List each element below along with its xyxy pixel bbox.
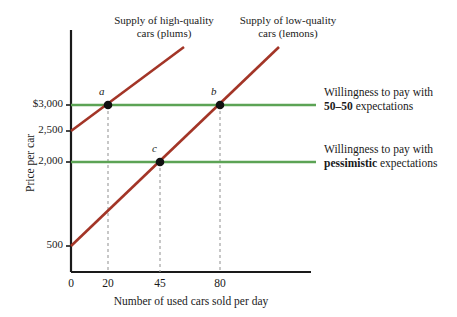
curve-label-plums: Supply of high-quality cars (plums) [106, 14, 222, 40]
legend-pessimistic-line2: pessimistic expectations [324, 157, 437, 171]
y-axis-title: Price per car [24, 134, 38, 192]
curve-label-plums-line1: Supply of high-quality [106, 14, 222, 27]
legend-5050-line2: 50–50 expectations [324, 100, 433, 114]
legend-5050-rest: expectations [353, 100, 413, 112]
point-b-label: b [211, 85, 217, 98]
legend-pessimistic-line1: Willingness to pay with [324, 143, 437, 157]
x-axis-title: Number of used cars sold per day [71, 295, 311, 309]
x-tick-label-20: 20 [93, 277, 123, 291]
supply-plums-line [71, 47, 184, 131]
point-a-marker [104, 101, 113, 110]
point-c-label: c [152, 142, 157, 155]
x-tick-label-45: 45 [145, 277, 175, 291]
x-tick-label-80: 80 [205, 277, 235, 291]
legend-5050-emphasis: 50–50 [324, 100, 353, 112]
legend-5050-line1: Willingness to pay with [324, 86, 433, 100]
supply-lemons-line [71, 47, 279, 246]
curve-label-lemons: Supply of low-quality cars (lemons) [232, 14, 344, 40]
point-b-marker [216, 101, 225, 110]
legend-pessimistic-emphasis: pessimistic [324, 157, 377, 169]
economics-lemons-chart: Supply of high-quality cars (plums) Supp… [0, 0, 457, 317]
curve-label-plums-line2: cars (plums) [106, 27, 222, 40]
curve-label-lemons-line2: cars (lemons) [232, 27, 344, 40]
point-c-marker [156, 158, 165, 167]
legend-pessimistic-rest: expectations [377, 157, 437, 169]
curve-label-lemons-line1: Supply of low-quality [232, 14, 344, 27]
x-tick-label-0: 0 [56, 277, 86, 291]
y-tick-label-500: 500 [0, 238, 63, 251]
legend-pessimistic: Willingness to pay with pessimistic expe… [324, 143, 437, 170]
legend-5050: Willingness to pay with 50–50 expectatio… [324, 86, 433, 113]
point-a-label: a [99, 85, 105, 98]
y-tick-label-3000: $3,000 [0, 97, 63, 110]
